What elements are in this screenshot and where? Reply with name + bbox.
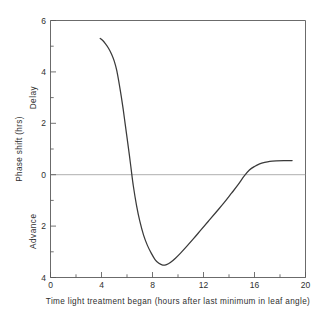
figure-container: 048121620 642024 DelayAdvance Time light… xyxy=(0,0,327,315)
x-axis-title: Time light treatment began (hours after … xyxy=(46,297,310,306)
y-tick-label: 2 xyxy=(41,221,46,231)
y-tick-label: 4 xyxy=(41,67,46,77)
x-tick-label: 4 xyxy=(99,280,104,290)
y-tick-label: 4 xyxy=(41,273,46,283)
x-tick-label: 12 xyxy=(199,280,209,290)
x-tick-label: 16 xyxy=(250,280,260,290)
x-tick-label: 8 xyxy=(150,280,155,290)
x-tick-label: 0 xyxy=(48,280,53,290)
plot-background xyxy=(0,0,327,315)
x-tick-label: 20 xyxy=(301,280,311,290)
region-label-delay: Delay xyxy=(29,85,38,109)
y-tick-label: 2 xyxy=(41,118,46,128)
y-tick-label: 0 xyxy=(41,170,46,180)
y-tick-label: 6 xyxy=(41,16,46,26)
y-axis-title: Phase shift (hrs) xyxy=(15,116,24,182)
phase-response-chart: 048121620 642024 DelayAdvance Time light… xyxy=(0,0,327,315)
region-label-advance: Advance xyxy=(29,214,38,249)
